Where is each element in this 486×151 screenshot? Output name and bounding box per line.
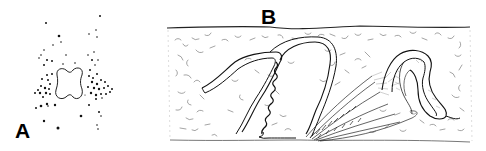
- figure-canvas: [0, 0, 486, 151]
- panel-label-b: B: [261, 6, 276, 27]
- lamella-left-outer: [202, 52, 282, 132]
- lamella-left-inner: [205, 58, 275, 134]
- lamella-arch-outer: [280, 42, 330, 134]
- panel-label-a: A: [15, 120, 30, 141]
- panel-a-illustration: [34, 15, 113, 130]
- panel-b-illustration: [167, 26, 472, 142]
- tissue-texture: [175, 32, 464, 136]
- lamella-arch-inner: [270, 37, 336, 136]
- lobed-shape: [56, 68, 83, 99]
- coil-outer: [382, 50, 446, 119]
- top-surface-line: [167, 26, 470, 29]
- crenellated-edge: [262, 62, 278, 134]
- stipple-dots: [34, 15, 113, 130]
